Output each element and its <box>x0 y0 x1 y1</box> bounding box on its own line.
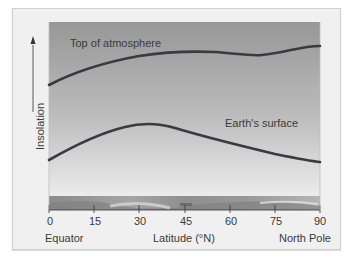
x-tick-label: 60 <box>225 215 237 227</box>
y-axis-arrow <box>31 36 36 112</box>
y-axis-label: Insolation <box>34 103 46 150</box>
north-pole-label: North Pole <box>279 232 331 244</box>
x-tick-label: 15 <box>89 215 101 227</box>
earths-surface-label: Earth's surface <box>225 117 298 129</box>
x-axis-label: Latitude (°N) <box>153 232 215 244</box>
x-tick-label: 45 <box>180 215 192 227</box>
x-tick-label: 0 <box>47 215 53 227</box>
x-tick-label: 90 <box>314 215 326 227</box>
top-of-atmosphere-label: Top of atmosphere <box>70 37 161 49</box>
earth-imagery-strip <box>49 196 320 210</box>
x-tick-label: 75 <box>270 215 282 227</box>
equator-label: Equator <box>45 232 84 244</box>
x-tick-label: 30 <box>134 215 146 227</box>
